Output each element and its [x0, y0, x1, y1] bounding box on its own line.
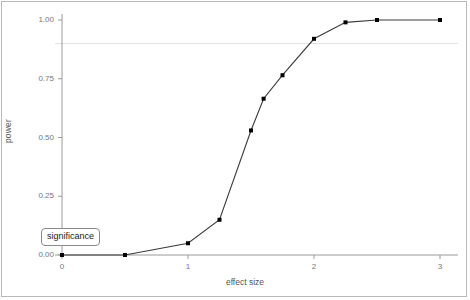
x-axis-tick-label: 3 [428, 262, 452, 271]
data-point-marker [312, 37, 316, 41]
y-axis-tick-label: 1.00 [20, 15, 54, 24]
y-axis-label: power [3, 111, 13, 151]
x-axis-tick-label: 0 [50, 262, 74, 271]
y-axis-tick-label: 0.50 [20, 133, 54, 142]
significance-annotation-label: significance [41, 228, 100, 246]
x-axis-label: effect size [200, 277, 290, 287]
data-point-marker [249, 128, 253, 132]
data-point-marker [186, 241, 190, 245]
power-series-line [62, 20, 440, 255]
data-point-marker [60, 253, 64, 257]
data-point-marker [438, 18, 442, 22]
power-curve-chart: power effect size 0.000.250.500.751.00 0… [0, 0, 470, 300]
data-point-marker [281, 73, 285, 77]
data-point-marker [344, 20, 348, 24]
y-axis-tick-label: 0.25 [20, 191, 54, 200]
data-point-marker [262, 97, 266, 101]
chart-canvas [0, 0, 470, 300]
y-axis-tick-label: 0.00 [20, 250, 54, 259]
x-axis-tick-label: 1 [176, 262, 200, 271]
data-point-marker [218, 218, 222, 222]
x-axis-tick-label: 2 [302, 262, 326, 271]
y-axis-tick-label: 0.75 [20, 74, 54, 83]
data-point-marker [123, 253, 127, 257]
data-point-marker [375, 18, 379, 22]
